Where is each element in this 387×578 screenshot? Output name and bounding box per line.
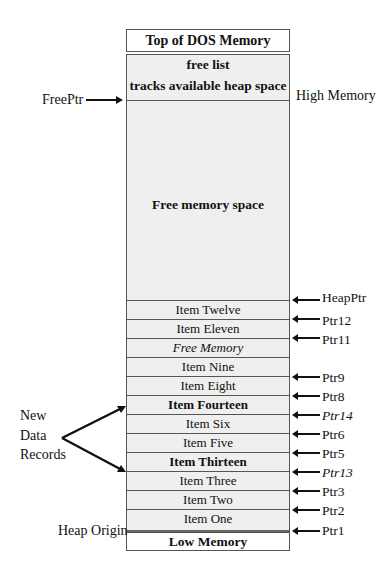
heap-row-free: Free Memory — [127, 338, 289, 358]
heap-row-new: Item Thirteen — [127, 452, 289, 472]
pointer-arrow-icon — [294, 376, 320, 378]
heap-row-new: Item Fourteen — [127, 395, 289, 415]
free-list-title: free list — [127, 57, 289, 73]
pointer-label: Ptr2 — [322, 503, 345, 519]
low-memory-block: Low Memory — [126, 532, 290, 551]
pointer-arrow-icon — [294, 337, 320, 339]
new-records-label-3: Records — [20, 447, 66, 463]
pointer-label: Ptr12 — [322, 313, 351, 329]
heap-row: Item Five — [127, 433, 289, 453]
high-memory-label: High Memory — [296, 88, 376, 104]
heap-row: Item Two — [127, 490, 289, 510]
pointer-label-new: Ptr13 — [322, 465, 353, 481]
top-of-dos-memory-block: Top of DOS Memory — [126, 29, 290, 52]
heap-row: Item Twelve — [127, 300, 289, 320]
free-ptr-boundary — [127, 100, 289, 101]
new-records-label-1: New — [20, 408, 46, 424]
heap-region: free list tracks available heap space Fr… — [126, 54, 290, 532]
pointer-label: Ptr1 — [322, 523, 345, 539]
heap-row: Item Eleven — [127, 319, 289, 339]
free-memory-space-label: Free memory space — [127, 197, 289, 213]
pointer-arrow-icon — [294, 433, 320, 435]
pointer-label-new: Ptr14 — [322, 408, 353, 424]
new-records-label-2: Data — [20, 428, 46, 444]
heap-row: Item Six — [127, 414, 289, 434]
pointer-arrow-icon — [294, 509, 320, 511]
free-ptr-arrow-icon — [84, 94, 124, 106]
pointer-label: Ptr9 — [322, 370, 345, 386]
pointer-arrow-icon — [294, 299, 320, 301]
pointer-label: Ptr3 — [322, 484, 345, 500]
pointer-label: Ptr8 — [322, 389, 345, 405]
heap-row: Item Nine — [127, 357, 289, 377]
free-list-description: tracks available heap space — [127, 78, 289, 94]
pointer-arrow-icon — [294, 471, 320, 473]
free-ptr-label: FreePtr — [42, 92, 83, 108]
heap-ptr-label: HeapPtr — [322, 290, 366, 306]
pointer-arrow-icon — [294, 490, 320, 492]
heap-row: Item Three — [127, 471, 289, 491]
pointer-arrow-icon — [294, 318, 320, 320]
pointer-label: Ptr11 — [322, 332, 351, 348]
pointer-label: Ptr5 — [322, 446, 345, 462]
pointer-arrow-icon — [294, 530, 320, 532]
pointer-arrow-icon — [294, 395, 320, 397]
new-records-arrows-icon — [60, 400, 130, 480]
pointer-arrow-icon — [294, 452, 320, 454]
pointer-arrow-icon — [294, 414, 320, 416]
heap-row: Item Eight — [127, 376, 289, 396]
pointer-label: Ptr6 — [322, 427, 345, 443]
heap-row: Item One — [127, 509, 289, 529]
heap-origin-label: Heap Origin — [58, 523, 128, 539]
